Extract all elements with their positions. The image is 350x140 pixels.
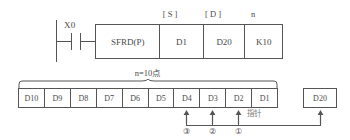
ladder-diagram: X0 [ S ] [ D ] n SFRD(P) D1 D20 K10 n=10…	[0, 0, 350, 140]
step-marker: ③	[179, 127, 193, 136]
instruction-opcode-cell: SFRD(P)	[96, 25, 159, 58]
instruction-box: SFRD(P) D1 D20 K10	[95, 24, 283, 59]
step-marker: ②	[205, 127, 219, 136]
register-cell: D6	[122, 89, 148, 107]
span-label: n=10点	[18, 66, 278, 78]
operand-tag-source: [ S ]	[148, 9, 192, 19]
rung-wire-right	[81, 41, 96, 42]
register-cell: D5	[148, 89, 174, 107]
operand-tag-destination: [ D ]	[192, 9, 234, 19]
register-cell: D3	[199, 89, 225, 107]
bus-drop	[320, 118, 321, 126]
contact-label: X0	[64, 20, 76, 30]
destination-box: D20	[303, 88, 337, 108]
operand-tag-count: n	[234, 9, 272, 19]
pointer-note: 指针	[247, 107, 261, 118]
step-marker: ①	[231, 127, 245, 136]
register-cell: D4	[173, 89, 199, 107]
bus-drop	[186, 118, 187, 126]
instruction-count-cell: K10	[244, 25, 282, 58]
register-cell: D1	[251, 89, 277, 107]
instruction-destination-cell: D20	[203, 25, 245, 58]
register-cell: D9	[44, 89, 70, 107]
register-row: D10 D9 D8 D7 D6 D5 D4 D3 D2 D1	[18, 88, 278, 108]
register-cell: D8	[70, 89, 96, 107]
bus-drop	[238, 118, 239, 126]
rung-wire-left	[57, 41, 71, 42]
register-cell: D7	[96, 89, 122, 107]
register-cell: D10	[19, 89, 44, 107]
contact-bar-left	[71, 33, 72, 50]
span-brace	[18, 79, 278, 88]
shift-bus-line	[186, 125, 320, 126]
bus-drop	[212, 118, 213, 126]
instruction-source-cell: D1	[159, 25, 203, 58]
register-cell: D2	[225, 89, 251, 107]
